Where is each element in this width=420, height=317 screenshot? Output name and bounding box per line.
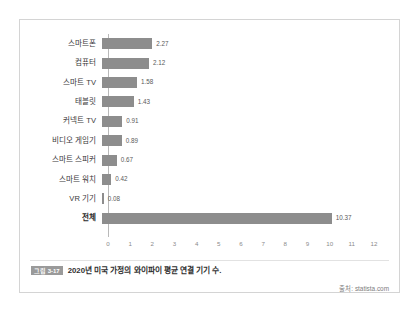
bar-category-label: VR 기기: [20, 195, 102, 203]
bar: [102, 213, 332, 224]
x-tick-label: 3: [173, 241, 176, 247]
bar-category-label: 전체: [20, 214, 102, 222]
bar-row: VR 기기0.08: [20, 189, 399, 208]
bar-value-label: 1.43: [138, 99, 150, 105]
bar-value-label: 0.89: [126, 138, 138, 144]
bar: [102, 193, 104, 204]
bar-row: 컴퓨터2.12: [20, 53, 399, 72]
bar-value-label: 2.27: [156, 41, 168, 47]
x-tick-label: 9: [306, 241, 309, 247]
bar-track: 0.89: [102, 131, 399, 150]
bar: [102, 38, 152, 49]
bar-category-label: 스마트 TV: [20, 79, 102, 87]
bar-chart: 스마트폰2.27컴퓨터2.12스마트 TV1.58태블릿1.43커넥트 TV0.…: [20, 20, 399, 254]
x-tick-label: 2: [151, 241, 154, 247]
bar-track: 1.58: [102, 73, 399, 92]
bar-track: 10.37: [102, 209, 399, 228]
source-attribution: 출처: statista.com: [339, 286, 389, 292]
bar-value-label: 10.37: [336, 215, 352, 221]
x-tick-label: 11: [349, 241, 355, 247]
bar-value-label: 0.08: [108, 196, 120, 202]
figure-card: 스마트폰2.27컴퓨터2.12스마트 TV1.58태블릿1.43커넥트 TV0.…: [19, 19, 400, 293]
bar-value-label: 0.67: [121, 157, 133, 163]
bar-row: 스마트 스피커0.67: [20, 150, 399, 169]
bar: [102, 116, 122, 127]
caption-badge: 그림 3-17: [31, 266, 63, 275]
bar-row: 전체10.37: [20, 209, 399, 228]
bar-category-label: 스마트 스피커: [20, 156, 102, 164]
x-tick-label: 1: [128, 241, 131, 247]
bar-value-label: 0.91: [126, 118, 138, 124]
bar-track: 0.91: [102, 112, 399, 131]
x-tick-label: 12: [371, 241, 378, 247]
x-tick-label: 10: [326, 241, 333, 247]
x-tick-label: 6: [239, 241, 242, 247]
bar-category-label: 태블릿: [20, 98, 102, 106]
bar-category-label: 비디오 게임기: [20, 137, 102, 145]
bar: [102, 96, 134, 107]
bar-row: 스마트 TV1.58: [20, 73, 399, 92]
bar-category-label: 스마트 워치: [20, 176, 102, 184]
bar: [102, 155, 117, 166]
bar-rows-container: 스마트폰2.27컴퓨터2.12스마트 TV1.58태블릿1.43커넥트 TV0.…: [20, 34, 399, 228]
bar-track: 2.12: [102, 53, 399, 72]
x-tick-label: 4: [195, 241, 198, 247]
x-tick-label: 8: [284, 241, 287, 247]
bar-row: 스마트 워치0.42: [20, 170, 399, 189]
bar: [102, 135, 122, 146]
x-tick-label: 0: [106, 241, 109, 247]
bar-value-label: 1.58: [141, 79, 153, 85]
caption-text: 2020년 미국 가정의 와이파이 평균 연결 기기 수.: [68, 267, 222, 275]
bar-row: 커넥트 TV0.91: [20, 112, 399, 131]
x-axis-ticks: 0123456789101112: [108, 241, 374, 255]
bar: [102, 58, 149, 69]
bar: [102, 174, 111, 185]
bar-category-label: 컴퓨터: [20, 59, 102, 67]
x-tick-label: 5: [217, 241, 220, 247]
bar-track: 0.67: [102, 150, 399, 169]
caption: 그림 3-17 2020년 미국 가정의 와이파이 평균 연결 기기 수.: [31, 266, 388, 275]
bar-track: 0.42: [102, 170, 399, 189]
bar-category-label: 커넥트 TV: [20, 117, 102, 125]
bar-track: 0.08: [102, 189, 399, 208]
bar-row: 비디오 게임기0.89: [20, 131, 399, 150]
bar-row: 스마트폰2.27: [20, 34, 399, 53]
bar-value-label: 2.12: [153, 60, 165, 66]
bar: [102, 77, 137, 88]
bar-category-label: 스마트폰: [20, 40, 102, 48]
bar-track: 1.43: [102, 92, 399, 111]
caption-divider: [30, 260, 389, 261]
x-tick-label: 7: [261, 241, 264, 247]
bar-value-label: 0.42: [115, 176, 127, 182]
bar-row: 태블릿1.43: [20, 92, 399, 111]
bar-track: 2.27: [102, 34, 399, 53]
